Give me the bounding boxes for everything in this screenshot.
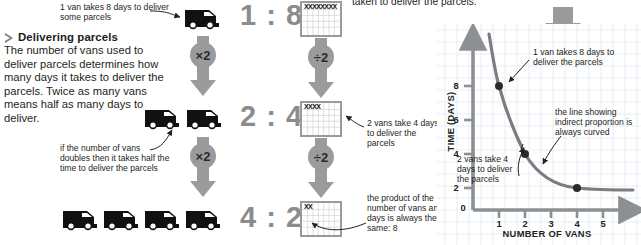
- ratio-row-2: 2 : 4: [240, 100, 303, 133]
- down-arrow-icon: [303, 138, 339, 200]
- clipped-top-text: taken to deliver the parcels.: [352, 0, 502, 8]
- van-icon: [143, 104, 181, 130]
- multiply-arrow-2-label: ×2: [185, 149, 221, 164]
- van-icon: [184, 205, 222, 231]
- annotation-one-van: 1 van takes 8 days to deliver some parce…: [60, 2, 178, 22]
- calendar-marks: XXXXXXXX: [304, 3, 340, 10]
- chart-panel: 8 6 4 2 0 1 2 3 4 5 TIME (DAYS) NUMBER O…: [437, 24, 641, 245]
- data-point-1-8: [495, 82, 503, 90]
- page-title: Delivering parcels: [5, 31, 118, 43]
- annotation-two-vans: 2 vans take 4 days to deliver the parcel…: [367, 118, 441, 148]
- chart-annotation-8-days: 1 van takes 8 days to deliver the parcel…: [533, 47, 627, 67]
- annotation-doubles: if the number of vans doubles then it ta…: [60, 143, 170, 173]
- triangle-bullet-icon: [5, 33, 14, 42]
- divide-arrow-2: ÷2: [303, 138, 339, 200]
- van-icon: [185, 104, 223, 130]
- x-axis-label: NUMBER OF VANS: [477, 228, 617, 239]
- van-icon: [102, 205, 140, 231]
- down-arrow-icon: [185, 137, 221, 199]
- van-icon: [143, 205, 181, 231]
- multiply-arrow-1: ×2: [185, 36, 221, 98]
- calendar-marks: XXXX: [304, 103, 340, 110]
- divide-arrow-1-label: ÷2: [303, 50, 339, 65]
- ratio-row-3: 4 : 2: [240, 201, 303, 234]
- y-axis-label: TIME (DAYS): [445, 87, 456, 157]
- diagram-root: taken to deliver the parcels. Delivering…: [0, 0, 641, 245]
- multiply-arrow-1-label: ×2: [185, 48, 221, 63]
- van-icon: [61, 205, 99, 231]
- divide-arrow-1: ÷2: [303, 38, 339, 100]
- data-point-4-2: [573, 184, 581, 192]
- down-arrow-icon: [303, 38, 339, 100]
- multiply-arrow-2: ×2: [185, 137, 221, 199]
- divide-arrow-2-label: ÷2: [303, 150, 339, 165]
- calendar-row-2: XXXX: [300, 101, 342, 137]
- calendar-row-1: XXXXXXXX: [300, 1, 342, 37]
- chart-annotation-2-vans: 2 vans take 4 days to deliver the parcel…: [457, 154, 515, 184]
- down-arrow-icon: [185, 36, 221, 98]
- page-title-text: Delivering parcels: [18, 31, 118, 43]
- calendar-marks: XX: [304, 203, 340, 210]
- chart-annotation-curved: the line showing indirect proportion is …: [555, 107, 635, 137]
- calendar-row-3: XX: [300, 201, 342, 237]
- origin-label: 0: [456, 202, 470, 213]
- ratio-row-1: 1 : 8: [240, 0, 303, 32]
- van-icon: [183, 4, 221, 30]
